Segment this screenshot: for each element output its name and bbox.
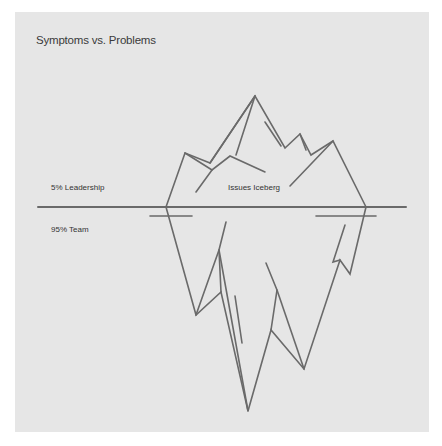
iceberg-base-facet <box>235 296 242 343</box>
iceberg-illustration <box>0 0 442 446</box>
iceberg-tip-facet <box>196 170 212 192</box>
iceberg-base-facet <box>333 225 345 262</box>
iceberg-tip-facet <box>236 96 255 155</box>
iceberg-tip-facet <box>290 141 333 186</box>
iceberg-base-facet <box>266 263 277 330</box>
iceberg-base-facet <box>277 290 304 369</box>
iceberg-tip-outline <box>166 96 366 207</box>
iceberg-tip-facet <box>210 96 255 163</box>
iceberg-base-facet <box>219 250 248 411</box>
iceberg-base-outline <box>166 207 366 411</box>
iceberg-tip-facet <box>300 134 306 150</box>
iceberg-tip-facet <box>185 153 265 172</box>
